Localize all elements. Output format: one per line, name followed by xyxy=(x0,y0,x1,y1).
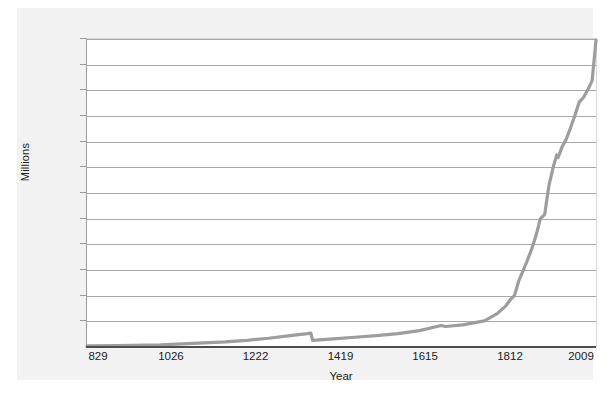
y-axis-title: Millions xyxy=(19,143,31,181)
y-axis-title-container: Millions xyxy=(15,8,35,316)
chart-panel: Millions 161116212631364146515661 829102… xyxy=(17,8,593,380)
x-axis-line xyxy=(86,346,596,348)
plot-area xyxy=(86,38,597,347)
x-axis-tick-label: 1419 xyxy=(328,351,354,363)
population-line-path xyxy=(87,40,596,346)
x-axis-tick-label: 1026 xyxy=(158,351,184,363)
x-axis-tick-label: 1615 xyxy=(412,351,438,363)
x-axis-tick-label: 1812 xyxy=(497,351,523,363)
x-axis-title: Year xyxy=(86,370,596,382)
population-growth-figure: Millions 161116212631364146515661 829102… xyxy=(0,0,610,407)
x-axis-tick-label: 829 xyxy=(88,351,107,363)
x-axis-tick-label: 1222 xyxy=(243,351,269,363)
series-line-population xyxy=(87,39,596,347)
x-axis-tick-label: 2009 xyxy=(568,351,594,363)
